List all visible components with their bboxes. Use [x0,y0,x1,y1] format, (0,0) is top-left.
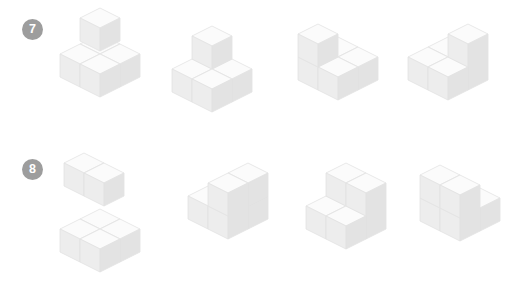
figure-7-1 [58,6,142,99]
problem-number-badge-8: 8 [22,159,43,180]
problem-row-7: 7 [0,0,526,149]
figure-8-3 [304,161,388,251]
figure-8-2 [186,161,270,241]
figure-7-2 [170,24,254,114]
figure-7-4 [406,22,490,102]
figure-7-3 [296,22,380,102]
figure-8-1-lower [58,207,142,274]
figure-8-1-upper [62,151,126,208]
problem-number-badge-7: 7 [22,19,43,40]
problem-row-8: 8 [0,149,526,298]
figure-8-4 [418,163,502,243]
worksheet-page: 7 8 [0,0,526,298]
